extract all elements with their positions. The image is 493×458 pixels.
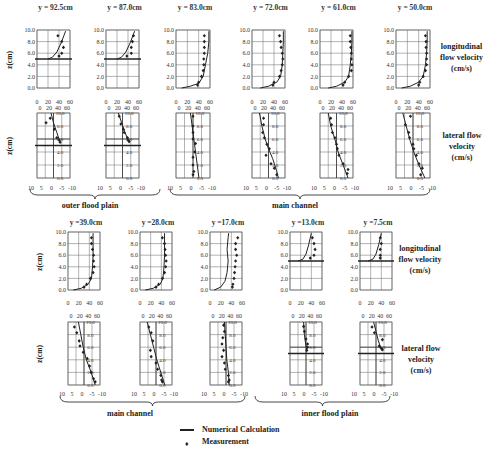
top-tick-label: 40: [415, 105, 421, 111]
y-tick-label: 2.0: [201, 276, 209, 282]
y-tick-label: 10.0: [348, 229, 359, 235]
top-tick-label: 60: [279, 105, 285, 111]
x-tick-label: 0: [209, 300, 212, 306]
y-tick-label: 6.0: [272, 137, 279, 142]
calc-line: [190, 113, 199, 178]
panel-28.0: y =28.0cm0.02.04.06.08.010.002040600.02.…: [128, 218, 179, 397]
top-tick-label: 40: [124, 105, 130, 111]
x-tick-label: 0: [67, 300, 70, 306]
y-tick-label: 6.0: [417, 137, 424, 142]
y-tick-label: 2.0: [311, 74, 319, 80]
calc-line: [260, 31, 283, 88]
longitudinal-plot: 0.02.04.06.08.010.00204060: [278, 229, 326, 306]
panel-title: y = 83.0cm: [178, 3, 213, 12]
x-tick-label: -5: [342, 185, 347, 191]
panel-title: y =39.0cm: [70, 218, 103, 227]
top-tick-label: 60: [166, 313, 172, 319]
measurement-marker: [234, 259, 237, 263]
y-tick-label: 4.0: [272, 150, 279, 155]
row-label-line: (cm/s): [430, 63, 493, 74]
top-tick-label: 20: [405, 105, 411, 111]
y-tick-label: 0.0: [309, 383, 316, 388]
longitudinal-plot: 0.02.04.06.08.010.00204060: [308, 27, 357, 105]
y-tick-label: 10.0: [271, 111, 280, 116]
y-tick-label: 10.0: [308, 27, 319, 33]
x-tick-label: 5: [179, 185, 182, 191]
y-tick-label: 6.0: [201, 252, 209, 258]
y-tick-label: 10.0: [195, 111, 204, 116]
top-tick-label: 60: [204, 105, 210, 111]
lateral-plot: 0.02.04.06.08.010.002040601050-5-10: [167, 105, 216, 191]
measurement-marker: [149, 349, 152, 353]
x-tick-label: -5: [128, 185, 133, 191]
x-tick-label: 10: [311, 185, 317, 191]
x-tick-label: -10: [208, 185, 216, 191]
top-tick-label: 40: [307, 313, 313, 319]
y-tick-label: 8.0: [379, 333, 386, 338]
measurement-marker: [49, 116, 52, 120]
y-axis-label: z(cm): [5, 51, 14, 69]
measurement-marker: [62, 46, 65, 50]
x-tick-label: 0: [373, 391, 376, 397]
x-tick-label: 0: [333, 185, 336, 191]
panel-title: y = 61.0cm: [321, 3, 356, 12]
x-tick-label: -10: [320, 391, 328, 397]
measurement-marker: [191, 155, 194, 159]
x-tick-label: 40: [228, 300, 234, 306]
longitudinal-plot: 0.02.04.06.08.010.00204060: [56, 229, 104, 306]
x-tick-label: -5: [199, 185, 204, 191]
measurement-marker: [279, 40, 282, 44]
top-tick-label: 20: [185, 105, 191, 111]
calc-line: [117, 31, 135, 59]
x-tick-label: 20: [298, 300, 304, 306]
x-tick-label: -5: [274, 185, 279, 191]
x-tick-label: 10: [97, 185, 103, 191]
measurement-marker: [220, 342, 223, 346]
x-tick-label: 10: [243, 185, 249, 191]
top-tick-label: 20: [219, 313, 225, 319]
x-tick-label: 10: [351, 391, 357, 397]
measurement-marker: [264, 153, 267, 157]
x-tick-label: 5: [71, 391, 74, 397]
x-tick-label: 0: [289, 300, 292, 306]
row-label-line: flow velocity: [430, 52, 493, 63]
panel-title: y = 87.0cm: [107, 3, 142, 12]
row-label-line: velocity: [432, 141, 492, 152]
y-tick-label: 0.0: [87, 383, 94, 388]
group-brace: [60, 396, 245, 406]
y-axis-label: z(cm): [5, 137, 14, 155]
top-tick-label: 40: [55, 105, 61, 111]
calc-line: [73, 233, 93, 290]
y-tick-label: 8.0: [309, 333, 316, 338]
panel-title: y = 50.0cm: [398, 3, 433, 12]
calc-line: [78, 322, 95, 385]
legend: Numerical Calculation ♦ Measurement: [180, 424, 340, 454]
lateral-plot: 0.02.04.06.08.010.002040601050-5-10: [311, 105, 359, 191]
lateral-plot: 0.02.04.06.08.010.002040601050-5-10: [243, 105, 291, 191]
y-tick-label: 4.0: [28, 62, 36, 68]
measurement-marker: [424, 34, 427, 38]
y-tick-label: 8.0: [97, 39, 105, 45]
y-tick-label: 2.0: [131, 276, 139, 282]
y-tick-label: 4.0: [281, 264, 289, 270]
y-tick-label: 10.0: [158, 320, 167, 325]
panel-50.0: y = 50.0cm0.02.04.06.08.010.002040600.02…: [384, 3, 437, 191]
y-tick-label: 10.0: [125, 111, 134, 116]
panel-title: y = 92.5cm: [38, 3, 73, 12]
y-axis-label: z(cm): [35, 345, 44, 363]
measurement-marker: [130, 46, 133, 50]
measurement-marker: [150, 355, 153, 359]
calc-line: [214, 233, 228, 290]
y-tick-label: 0.0: [131, 287, 139, 293]
y-tick-label: 8.0: [311, 39, 319, 45]
y-tick-label: 6.0: [131, 252, 139, 258]
row-label-longitudinal-top: longitudinal flow velocity (cm/s): [430, 41, 493, 74]
top-tick-label: 0: [70, 313, 73, 319]
top-tick-label: 60: [64, 105, 70, 111]
measurement-marker: [202, 57, 205, 61]
y-tick-label: 6.0: [167, 50, 175, 56]
panel-17.0: y =17.0cm0.02.04.06.08.010.002040600.02.…: [198, 218, 249, 397]
row-label-longitudinal-bottom: longitudinal flow velocity (cm/s): [380, 243, 460, 276]
x-tick-label: 0: [50, 185, 53, 191]
y-tick-label: 2.0: [97, 74, 105, 80]
